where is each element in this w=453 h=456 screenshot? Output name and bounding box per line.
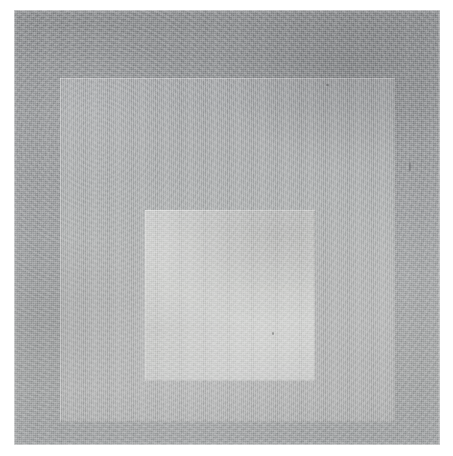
paper-plate [14, 10, 440, 445]
artwork-canvas: Nested Squares Study three concentric sq… [0, 0, 453, 456]
outer-field [14, 10, 440, 445]
inner-field [145, 210, 315, 381]
artwork-form-description: three concentric squares, inner squares … [0, 0, 1, 1]
middle-field [60, 78, 395, 422]
artwork-medium: textured handmade paper with matte pigme… [0, 0, 1, 1]
inner-field-grain [145, 210, 315, 381]
inner-field-mottle [145, 210, 315, 381]
artwork-title: Nested Squares Study [0, 0, 1, 1]
